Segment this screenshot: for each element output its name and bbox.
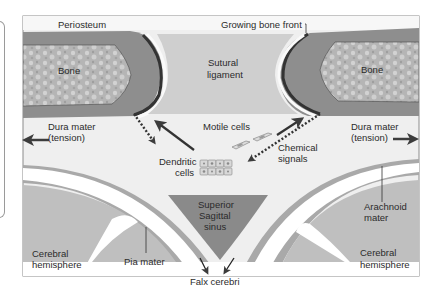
label-hemisphere-right: hemisphere [360,259,410,270]
label-growing-bone-front: Growing bone front [221,19,302,30]
label-bone-right: Bone [361,64,383,75]
cranial-suture-diagram: Periosteum Growing bone front Bone Bone … [0,0,437,308]
label-mater: mater [364,212,388,223]
label-cells: cells [175,167,194,178]
label-bone-left: Bone [58,65,80,76]
label-sinus: sinus [204,221,226,232]
label-cerebral-right: Cerebral [360,247,396,258]
label-dura-right-1: Dura mater [351,121,399,132]
label-dura-right-2: (tension) [351,132,388,143]
label-periosteum: Periosteum [58,19,106,30]
label-cerebral-left: Cerebral [32,248,68,259]
label-arachnoid: Arachnoid [364,201,407,212]
label-sagittal: Sagittal [199,210,231,221]
label-ligament: ligament [207,69,243,80]
label-dendritic: Dendritic [159,156,197,167]
label-sutural: Sutural [208,57,238,68]
label-signals: signals [278,153,308,164]
label-hemisphere-left: hemisphere [32,259,82,270]
label-superior: Superior [198,199,234,210]
label-motile-cells: Motile cells [203,121,250,132]
label-dura-left-1: Dura mater [48,121,96,132]
label-chemical: Chemical [278,142,318,153]
label-dura-left-2: (tension) [48,132,85,143]
label-pia-mater: Pia mater [124,256,165,267]
label-falx-cerebri: Falx cerebri [190,276,240,287]
